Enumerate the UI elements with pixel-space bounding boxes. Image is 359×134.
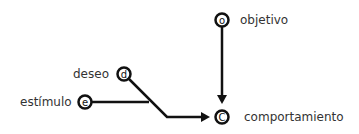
node-objetivo: o xyxy=(216,14,229,27)
arrowhead-icon xyxy=(217,95,227,104)
svg-text:o: o xyxy=(219,15,225,26)
node-deseo: d xyxy=(118,68,131,81)
label-comportamiento: comportamiento xyxy=(244,110,344,124)
svg-text:e: e xyxy=(82,97,88,108)
svg-text:d: d xyxy=(121,69,127,80)
edge-deseo-estimulo-comportamiento xyxy=(92,79,210,122)
node-comportamiento: C xyxy=(216,111,229,124)
arrowhead-icon xyxy=(201,112,210,122)
edge-objetivo-comportamiento xyxy=(217,27,227,104)
svg-text:C: C xyxy=(219,112,226,123)
label-objetivo: objetivo xyxy=(240,13,288,27)
label-deseo: deseo xyxy=(73,67,109,81)
label-estimulo: estímulo xyxy=(20,95,72,109)
node-estimulo: e xyxy=(79,96,92,109)
